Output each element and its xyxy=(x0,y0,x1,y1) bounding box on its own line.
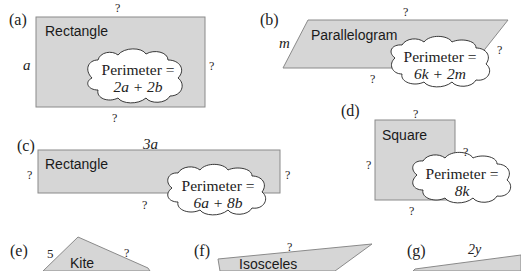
problem-b-label: (b) xyxy=(260,12,279,28)
problem-a-bottom-side: ? xyxy=(112,112,117,124)
problem-e-label: (e) xyxy=(10,243,28,259)
perimeter-expression: 8k xyxy=(420,182,504,199)
problem-d-label: (d) xyxy=(341,103,360,119)
problem-e-upper-right-side: ? xyxy=(124,247,129,259)
problem-d-perimeter: Perimeter = 8k xyxy=(420,165,504,199)
problem-f-shape-name: Isosceles xyxy=(239,257,297,271)
problem-d-left-side: ? xyxy=(366,159,371,171)
problem-b-perimeter: Perimeter = 6k + 2m xyxy=(400,48,480,82)
problem-d-top-side: ? xyxy=(413,108,418,120)
problem-c-bottom-side: ? xyxy=(142,199,147,211)
problem-g-label: (g) xyxy=(407,243,426,259)
perimeter-label: Perimeter = xyxy=(400,48,480,65)
problem-a-top-side: ? xyxy=(115,2,120,14)
problem-c-left-side: ? xyxy=(27,169,32,181)
problem-d-right-side: ? xyxy=(463,146,468,158)
problem-b-bottom-side: ? xyxy=(370,73,375,85)
problem-e-shape-name: Kite xyxy=(70,256,94,270)
perimeter-label: Perimeter = xyxy=(176,177,260,194)
problem-b-shape-name: Parallelogram xyxy=(311,28,397,42)
problem-a-label: (a) xyxy=(9,12,27,28)
problem-c-right-side: ? xyxy=(285,169,290,181)
problem-c-shape-name: Rectangle xyxy=(45,157,108,171)
perimeter-expression: 2a + 2b xyxy=(98,78,178,95)
problem-c-top-side: 3a xyxy=(143,137,158,152)
perimeter-expression: 6k + 2m xyxy=(400,65,480,82)
problem-f-label: (f) xyxy=(194,243,210,259)
shape-g xyxy=(413,255,521,271)
shape-e-kite xyxy=(43,237,150,271)
problem-f-top-side: ? xyxy=(287,241,292,253)
problem-b-left-side: m xyxy=(279,36,290,51)
perimeter-expression: 6a + 8b xyxy=(176,194,260,211)
problem-b-top-side: ? xyxy=(403,6,408,18)
problem-d-bottom-side: ? xyxy=(409,205,414,217)
problem-c-perimeter: Perimeter = 6a + 8b xyxy=(176,177,260,211)
problem-e-upper-left-side: 5 xyxy=(47,247,54,260)
problem-d-shape-name: Square xyxy=(382,128,427,142)
problem-b-right-side: ? xyxy=(497,44,502,56)
problem-a-right-side: ? xyxy=(209,60,214,72)
problem-a-left-side: a xyxy=(23,58,31,73)
problem-a-perimeter: Perimeter = 2a + 2b xyxy=(98,61,178,95)
problem-c-label: (c) xyxy=(17,138,35,154)
problem-g-top-side: 2y xyxy=(468,243,481,257)
problem-a-shape-name: Rectangle xyxy=(45,24,108,38)
figure-canvas xyxy=(0,0,521,271)
perimeter-label: Perimeter = xyxy=(420,165,504,182)
perimeter-label: Perimeter = xyxy=(98,61,178,78)
